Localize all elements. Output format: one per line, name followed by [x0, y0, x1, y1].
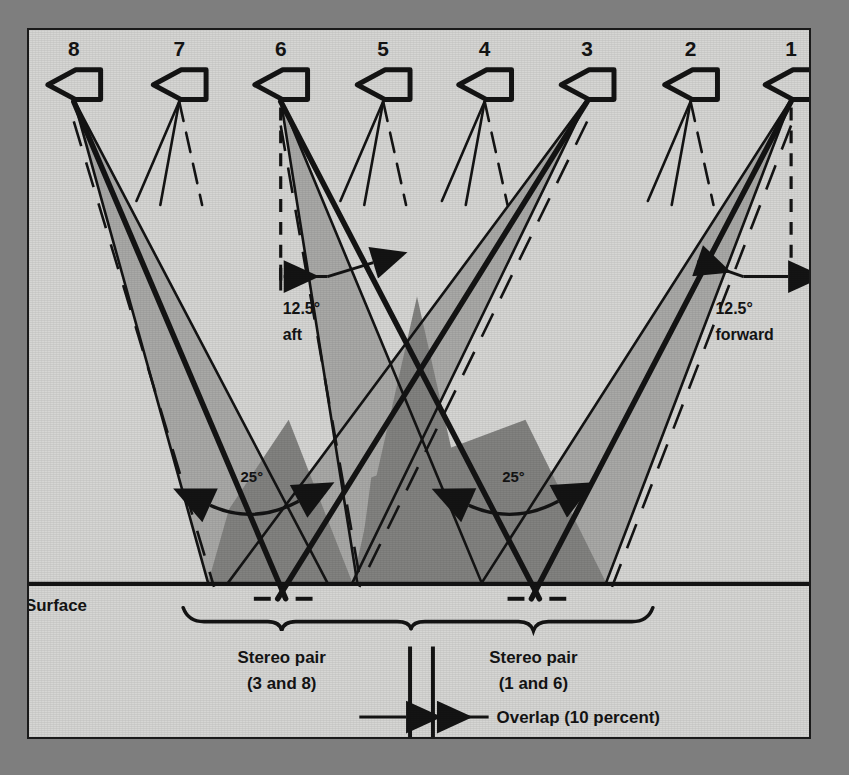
camera-icon-1 [765, 70, 809, 100]
stub-2-c [691, 102, 714, 205]
camera-icon-5 [357, 70, 410, 100]
camera-station-7[interactable]: 7 [153, 37, 206, 100]
ray-camera-1-bold [531, 102, 791, 599]
stereo-pair-left-members: (3 and 8) [247, 674, 316, 693]
brace-pair-3-8 [183, 608, 411, 631]
overlap-label: Overlap (10 percent) [497, 708, 660, 727]
camera-label-6: 6 [275, 37, 287, 60]
camera-station-4[interactable]: 4 [459, 37, 512, 100]
coverage-diagram: 8 7 6 5 4 [29, 30, 809, 737]
camera-icon-2 [665, 70, 718, 100]
diagram-panel: 8 7 6 5 4 [27, 28, 811, 739]
camera-station-5[interactable]: 5 [357, 37, 410, 100]
camera-label-1: 1 [785, 37, 797, 60]
stub-7-b [160, 102, 179, 205]
camera-station-2[interactable]: 2 [665, 37, 718, 100]
stub-4-c [485, 102, 508, 205]
camera-label-5: 5 [377, 37, 389, 60]
stub-2-a [648, 102, 691, 201]
camera-icon-6 [255, 70, 308, 100]
camera-stations: 8 7 6 5 4 [48, 37, 809, 100]
stereo-pair-left-label: Stereo pair [238, 648, 327, 667]
stereo-pair-right-members: (1 and 6) [499, 674, 568, 693]
camera-icon-4 [459, 70, 512, 100]
forward-angle-value: 12.5° [715, 300, 752, 317]
stub-5-a [340, 102, 383, 201]
camera-station-6[interactable]: 6 [255, 37, 308, 100]
stub-2-b [672, 102, 691, 205]
inactive-camera-rays [136, 102, 713, 205]
camera-label-7: 7 [173, 37, 185, 60]
camera-label-3: 3 [581, 37, 593, 60]
stub-5-b [364, 102, 383, 205]
camera-label-4: 4 [479, 37, 491, 60]
aft-angle-value: 12.5° [283, 300, 320, 317]
stub-4-a [442, 102, 485, 201]
forward-angle-direction: forward [715, 326, 773, 343]
ray-camera-8-bold [74, 102, 286, 599]
stub-7-a [136, 102, 179, 201]
brace-pair-1-6 [411, 608, 653, 631]
stereo-pair-braces [183, 608, 653, 631]
stub-4-b [466, 102, 485, 205]
camera-station-3[interactable]: 3 [561, 37, 614, 100]
aft-angle-direction: aft [283, 326, 303, 343]
surface-label: Surface [29, 596, 87, 615]
stub-5-c [383, 102, 406, 205]
camera-icon-3 [561, 70, 614, 100]
camera-icon-7 [153, 70, 206, 100]
camera-label-2: 2 [685, 37, 697, 60]
camera-station-1[interactable]: 1 [765, 37, 809, 100]
surface-group: Surface [29, 584, 809, 615]
fov-left-value: 25° [241, 469, 264, 485]
stub-7-c [179, 102, 202, 205]
stereo-pair-captions: Stereo pair (3 and 8) Stereo pair (1 and… [238, 648, 578, 693]
camera-label-8: 8 [68, 37, 80, 60]
camera-icon-8 [48, 70, 101, 100]
fov-right-value: 25° [502, 469, 525, 485]
figure-page: 8 7 6 5 4 [0, 0, 849, 775]
camera-station-8[interactable]: 8 [48, 37, 101, 100]
stereo-pair-right-label: Stereo pair [489, 648, 578, 667]
